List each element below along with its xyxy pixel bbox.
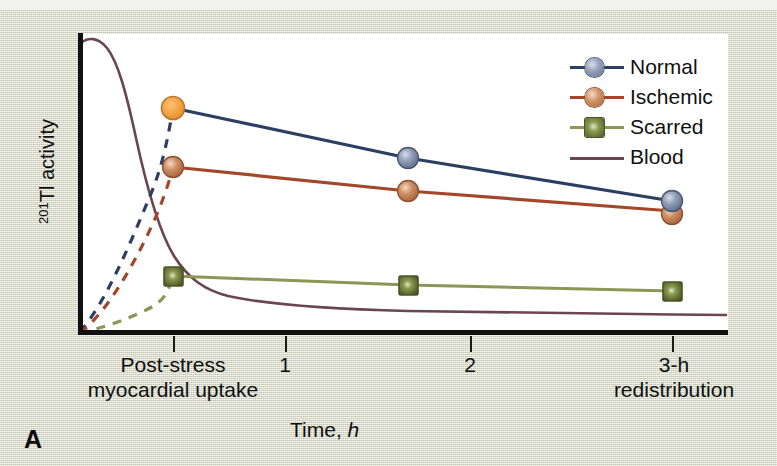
data-point-scarred-0 xyxy=(164,267,183,286)
legend-label-normal: Normal xyxy=(624,55,698,79)
series-uptake-ischemic xyxy=(80,167,173,333)
x-tick-label-1: 1 xyxy=(265,352,305,377)
legend-label-blood: Blood xyxy=(624,145,684,169)
legend-circle-icon xyxy=(585,88,604,107)
x-tick-label-2: 2 xyxy=(450,352,490,377)
legend-label-scarred: Scarred xyxy=(624,115,704,139)
x-tick-label-post-stress: Post-stress myocardial uptake xyxy=(78,352,268,402)
x-tick-label-post-stress-line1: Post-stress xyxy=(78,352,268,377)
x-tick-label-1-line1: 1 xyxy=(265,352,305,377)
x-axis-title-main: Time, xyxy=(290,418,348,441)
data-point-scarred-2 xyxy=(663,282,682,301)
legend-label-ischemic: Ischemic xyxy=(624,85,713,109)
figure-panel-a: 201Tl activity Post-stress myocardial up… xyxy=(0,0,777,466)
y-axis xyxy=(78,33,83,335)
legend-marker-scarred xyxy=(570,114,624,140)
legend-item-blood[interactable]: Blood xyxy=(570,142,720,172)
y-axis-title-superscript: 201 xyxy=(36,202,51,224)
legend-circle-icon xyxy=(585,58,604,77)
data-point-normal-1 xyxy=(398,148,419,169)
x-tick-label-redistribution-line2: redistribution xyxy=(600,377,748,402)
series-uptake-scarred xyxy=(80,276,173,333)
legend-square-icon xyxy=(585,118,604,137)
y-axis-title-main: Tl activity xyxy=(36,119,58,202)
x-tick-label-redistribution: 3-h redistribution xyxy=(600,352,748,402)
legend-item-ischemic[interactable]: Ischemic xyxy=(570,82,720,112)
x-tick-0 xyxy=(173,336,175,352)
x-axis-title-unit: h xyxy=(348,418,360,441)
x-axis xyxy=(78,330,728,335)
legend-marker-normal xyxy=(570,54,624,80)
series-line-scarred xyxy=(173,276,672,291)
legend-marker-ischemic xyxy=(570,84,624,110)
y-axis-title: 201Tl activity xyxy=(36,92,59,252)
data-point-normal-0 xyxy=(162,97,185,120)
data-point-ischemic-0 xyxy=(163,157,184,178)
x-tick-3 xyxy=(672,336,674,352)
legend-item-scarred[interactable]: Scarred xyxy=(570,112,720,142)
legend-item-normal[interactable]: Normal xyxy=(570,52,720,82)
x-tick-label-redistribution-line1: 3-h xyxy=(600,352,748,377)
data-point-normal-2 xyxy=(662,191,683,212)
x-axis-title: Time, h xyxy=(290,418,359,442)
panel-letter: A xyxy=(24,425,42,454)
chart-legend: Normal Ischemic Scarred Blood xyxy=(570,52,720,172)
data-point-ischemic-1 xyxy=(398,181,419,202)
x-tick-label-post-stress-line2: myocardial uptake xyxy=(78,377,268,402)
legend-marker-blood xyxy=(570,144,624,170)
x-tick-label-2-line1: 2 xyxy=(450,352,490,377)
x-tick-1 xyxy=(285,336,287,352)
data-point-scarred-1 xyxy=(399,276,418,295)
x-tick-2 xyxy=(470,336,472,352)
